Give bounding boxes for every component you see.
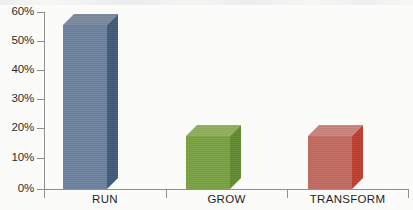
bar-grow-side-face xyxy=(230,125,241,189)
bar-run-front-face xyxy=(63,25,107,189)
bar-transform-front-face xyxy=(308,136,352,189)
y-tick-40 xyxy=(37,70,44,71)
y-axis-label-20: 20% xyxy=(0,122,34,134)
y-tick-0 xyxy=(37,189,44,190)
y-axis-label-50: 50% xyxy=(0,35,34,47)
y-axis-label-0: 0% xyxy=(0,183,34,195)
bar-run[interactable] xyxy=(63,14,118,189)
y-axis-label-60: 60% xyxy=(0,6,34,18)
bar-transform-side-face xyxy=(352,125,363,189)
category-label-run: RUN xyxy=(44,194,166,206)
y-tick-50 xyxy=(37,41,44,42)
y-axis-line xyxy=(44,12,45,190)
bar-grow-front-face xyxy=(186,136,230,189)
y-tick-60 xyxy=(37,12,44,13)
bar-transform[interactable] xyxy=(308,125,363,189)
y-axis-label-30: 30% xyxy=(0,93,34,105)
y-axis-label-40: 40% xyxy=(0,64,34,76)
bar-grow[interactable] xyxy=(186,125,241,189)
y-tick-10 xyxy=(37,158,44,159)
y-axis-label-10: 10% xyxy=(0,152,34,164)
y-tick-30 xyxy=(37,99,44,100)
bar-chart: 60% 50% 40% 30% 20% 10% 0% xyxy=(0,0,413,210)
x-axis-line xyxy=(44,189,409,190)
cropped-title-artifact xyxy=(0,0,413,5)
category-label-transform: TRANSFORM xyxy=(287,194,408,206)
y-tick-20 xyxy=(37,128,44,129)
bar-run-side-face xyxy=(107,14,118,189)
category-label-grow: GROW xyxy=(166,194,287,206)
x-axis-end-cap xyxy=(408,189,409,198)
